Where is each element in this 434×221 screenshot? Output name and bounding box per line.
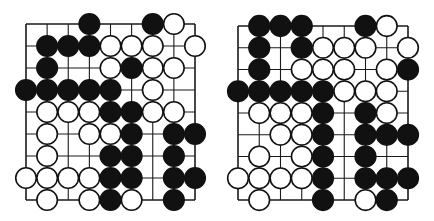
black-stone <box>121 102 142 123</box>
white-stone <box>185 36 206 57</box>
white-stone <box>37 190 58 211</box>
black-stone <box>164 190 185 211</box>
white-stone <box>164 58 185 79</box>
black-stone <box>164 124 185 145</box>
board-left-svg <box>0 0 217 221</box>
black-stone <box>355 103 376 124</box>
black-stone <box>355 124 376 145</box>
white-stone <box>228 168 249 189</box>
white-stone <box>37 168 58 189</box>
black-stone <box>121 124 142 145</box>
white-stone <box>355 190 376 211</box>
white-stone <box>291 168 312 189</box>
white-stone <box>79 102 100 123</box>
black-stone <box>37 58 58 79</box>
black-stone <box>142 14 163 35</box>
black-stone <box>376 124 397 145</box>
go-board-left <box>0 0 217 221</box>
black-stone <box>249 59 270 80</box>
white-stone <box>79 168 100 189</box>
black-stone <box>164 146 185 167</box>
stones <box>228 16 419 211</box>
white-stone <box>164 14 185 35</box>
white-stone <box>249 168 270 189</box>
white-stone <box>100 58 121 79</box>
black-stone <box>100 102 121 123</box>
white-stone <box>398 37 419 58</box>
white-stone <box>142 102 163 123</box>
white-stone <box>376 16 397 37</box>
white-stone <box>100 36 121 57</box>
black-stone <box>58 36 79 57</box>
white-stone <box>121 36 142 57</box>
black-stone <box>16 80 37 101</box>
white-stone <box>355 37 376 58</box>
black-stone <box>249 37 270 58</box>
black-stone <box>313 190 334 211</box>
white-stone <box>376 81 397 102</box>
black-stone <box>100 190 121 211</box>
white-stone <box>291 59 312 80</box>
black-stone <box>37 36 58 57</box>
white-stone <box>334 59 355 80</box>
black-stone <box>355 146 376 167</box>
black-stone <box>249 16 270 37</box>
stones <box>16 14 206 211</box>
black-stone <box>58 80 79 101</box>
black-stone <box>376 190 397 211</box>
white-stone <box>376 59 397 80</box>
white-stone <box>100 124 121 145</box>
white-stone <box>37 146 58 167</box>
white-stone <box>270 168 291 189</box>
white-stone <box>291 124 312 145</box>
white-stone <box>121 190 142 211</box>
white-stone <box>313 37 334 58</box>
white-stone <box>334 81 355 102</box>
black-stone <box>121 168 142 189</box>
black-stone <box>313 168 334 189</box>
black-stone <box>270 81 291 102</box>
white-stone <box>334 37 355 58</box>
black-stone <box>79 36 100 57</box>
black-stone <box>79 14 100 35</box>
black-stone <box>376 168 397 189</box>
black-stone <box>185 124 206 145</box>
white-stone <box>79 190 100 211</box>
black-stone <box>228 81 249 102</box>
white-stone <box>355 81 376 102</box>
black-stone <box>79 80 100 101</box>
white-stone <box>291 146 312 167</box>
black-stone <box>291 37 312 58</box>
black-stone <box>398 124 419 145</box>
black-stone <box>291 81 312 102</box>
white-stone <box>16 168 37 189</box>
black-stone <box>313 124 334 145</box>
white-stone <box>249 190 270 211</box>
white-stone <box>79 124 100 145</box>
black-stone <box>121 58 142 79</box>
black-stone <box>249 81 270 102</box>
white-stone <box>37 124 58 145</box>
board-right-svg <box>217 0 434 221</box>
black-stone <box>100 146 121 167</box>
black-stone <box>270 16 291 37</box>
white-stone <box>249 146 270 167</box>
black-stone <box>291 16 312 37</box>
black-stone <box>355 16 376 37</box>
white-stone <box>142 58 163 79</box>
black-stone <box>164 168 185 189</box>
go-board-right <box>217 0 434 221</box>
white-stone <box>58 168 79 189</box>
black-stone <box>37 80 58 101</box>
black-stone <box>398 168 419 189</box>
black-stone <box>313 81 334 102</box>
white-stone <box>291 103 312 124</box>
white-stone <box>376 103 397 124</box>
white-stone <box>313 59 334 80</box>
black-stone <box>121 146 142 167</box>
black-stone <box>100 168 121 189</box>
white-stone <box>164 102 185 123</box>
black-stone <box>355 168 376 189</box>
white-stone <box>142 36 163 57</box>
black-stone <box>313 103 334 124</box>
